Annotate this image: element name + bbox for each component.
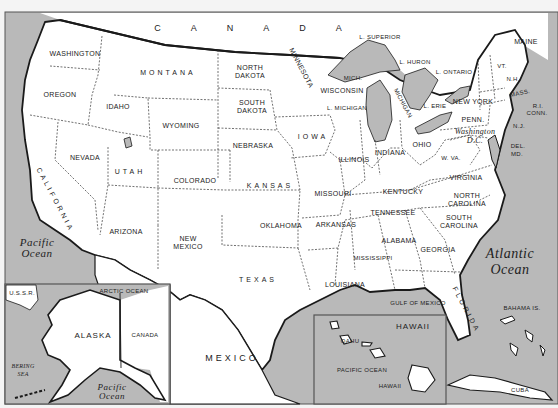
label-washington: WASHINGTON: [50, 50, 101, 58]
label-alaska: ALASKA: [74, 332, 111, 340]
label-georgia: GEORGIA: [421, 246, 456, 254]
label-arizona: ARIZONA: [109, 228, 142, 236]
label-nevada: NEVADA: [70, 154, 100, 162]
label-new-york: NEW YORK: [453, 98, 493, 106]
label-ussr: U.S.S.R.: [9, 289, 35, 297]
label-penn: PENN.: [462, 116, 485, 124]
label-new-jersey: N.J.: [513, 122, 525, 130]
label-texas: TEXAS: [239, 276, 277, 284]
label-conn: CONN.: [527, 109, 548, 117]
label-lake-erie: L. ERIE: [424, 102, 447, 110]
label-canada-inset: CANADA: [132, 331, 159, 339]
label-illinois: ILLINOIS: [338, 156, 369, 164]
label-maryland: MD.: [511, 150, 523, 158]
label-lake-superior: L. SUPERIOR: [359, 33, 400, 41]
label-pacific-ocean-hawaii: PACIFIC OCEAN: [337, 366, 387, 374]
label-hawaii: HAWAII: [396, 323, 430, 331]
label-arkansas: ARKANSAS: [316, 221, 357, 229]
label-bahama: BAHAMA IS.: [503, 304, 540, 312]
label-south-carolina: SOUTH CAROLINA: [440, 214, 478, 230]
label-oahu: OAHU: [341, 337, 360, 345]
kauai: [330, 321, 339, 329]
label-vermont: VT.: [497, 62, 507, 70]
label-pacific-ocean: Pacific Ocean: [20, 237, 55, 259]
label-pacific-ocean-alaska: Pacific Ocean: [98, 383, 127, 401]
label-tennessee: TENNESSEE: [370, 209, 415, 217]
label-kansas: KANSAS: [247, 182, 293, 190]
label-north-dakota: NORTH DAKOTA: [235, 64, 265, 80]
label-alabama: ALABAMA: [381, 237, 416, 245]
label-arctic-ocean: ARCTIC OCEAN: [100, 287, 149, 295]
label-colorado: COLORADO: [174, 177, 216, 185]
label-delaware: DEL.: [511, 142, 526, 150]
label-maine: MAINE: [514, 38, 538, 46]
label-missouri: MISSOURI: [314, 190, 351, 198]
label-canada: C A N A D A: [154, 24, 356, 32]
label-mich-upper: MICH.: [344, 74, 363, 82]
label-utah: UTAH: [115, 168, 146, 176]
label-south-dakota: SOUTH DAKOTA: [237, 99, 267, 115]
label-louisiana: LOUISIANA: [325, 281, 365, 289]
label-atlantic-ocean: Atlantic Ocean: [486, 246, 534, 278]
label-washington-dc: Washington D.C.: [455, 127, 496, 145]
label-lake-huron: L. HURON: [399, 58, 430, 66]
label-mexico: MEXICO: [205, 354, 259, 362]
label-north-carolina: NORTH CAROLINA: [448, 192, 486, 208]
label-wyoming: WYOMING: [162, 122, 199, 130]
label-new-mexico: NEW MEXICO: [173, 235, 202, 251]
label-indiana: INDIANA: [375, 149, 406, 157]
label-lake-ontario: L. ONTARIO: [436, 68, 473, 76]
label-ohio: OHIO: [412, 141, 431, 149]
label-cuba: CUBA: [511, 386, 529, 394]
label-montana: MONTANA: [140, 69, 195, 77]
molokai: [362, 342, 372, 346]
label-iowa: IOWA: [298, 133, 328, 141]
label-gulf-of-mexico: GULF OF MEXICO: [390, 299, 446, 307]
label-virginia: VIRGINIA: [449, 174, 482, 182]
label-l-michigan: L. MICHIGAN: [327, 104, 367, 112]
label-oregon: OREGON: [44, 91, 77, 99]
label-mississippi: MISSISSIPPI: [354, 254, 393, 262]
label-hawaii-island: HAWAII: [379, 382, 402, 390]
label-nebraska: NEBRASKA: [233, 142, 274, 150]
label-kentucky: KENTUCKY: [383, 188, 424, 196]
label-idaho: IDAHO: [106, 103, 130, 111]
label-oklahoma: OKLAHOMA: [260, 222, 302, 230]
label-bering-sea: BERING SEA: [11, 362, 34, 378]
label-wisconsin: WISCONSIN: [320, 87, 363, 95]
label-new-hampshire: N.H.: [506, 75, 519, 83]
label-west-virginia: W. VA.: [441, 154, 461, 162]
alaska-inset: [5, 284, 170, 404]
